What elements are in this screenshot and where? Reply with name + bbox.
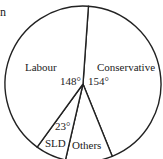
angle-sld: 23° xyxy=(55,121,70,132)
label-labour: Labour xyxy=(25,62,57,73)
label-others: Others xyxy=(72,140,101,151)
angle-labour: 148° xyxy=(60,76,81,87)
label-sld: SLD xyxy=(45,138,66,149)
pie-chart xyxy=(0,0,163,159)
angle-conservative: 154° xyxy=(88,76,109,87)
pie-slices xyxy=(5,6,161,159)
label-conservative: Conservative xyxy=(97,62,155,73)
